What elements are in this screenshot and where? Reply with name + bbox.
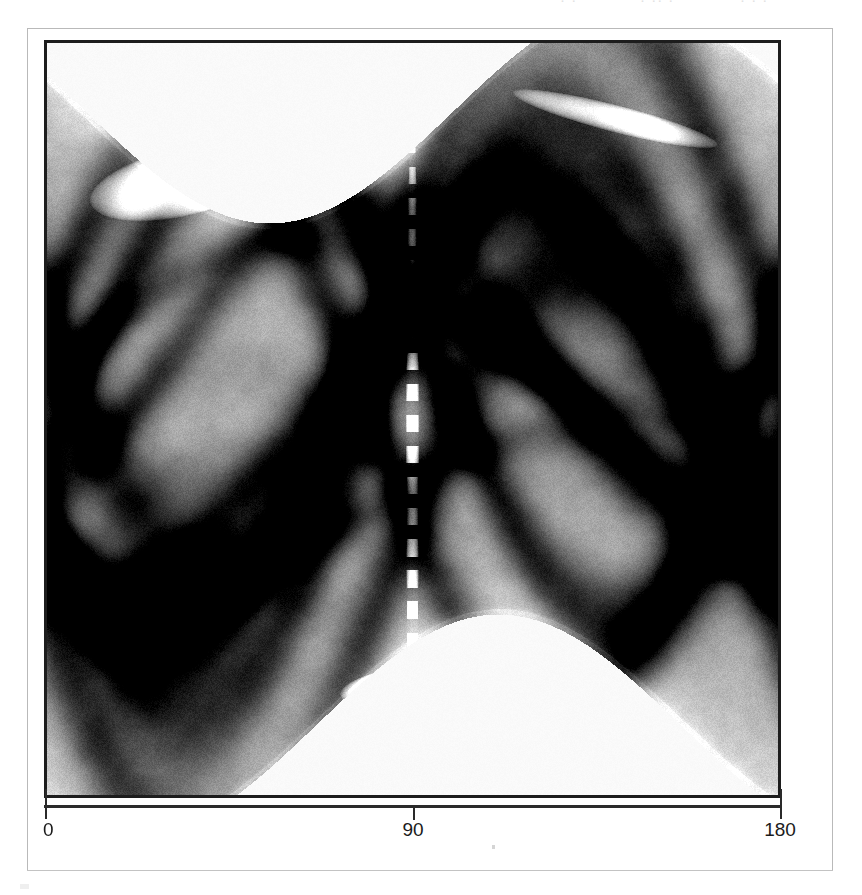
x-axis-tick-label-180: 180	[764, 820, 796, 839]
scan-artifact-top-strip: · ·· ·· ·· · ·	[0, 0, 862, 14]
scan-text-fragment: · · ·	[740, 0, 768, 8]
scan-text-fragment: · ·· ·	[640, 0, 674, 8]
x-axis-tick-180	[780, 789, 782, 819]
x-axis-tick-90	[413, 805, 415, 820]
scan-text-fragment: · ·	[560, 0, 577, 8]
sinogram-image	[47, 43, 778, 795]
x-axis-tick-0	[45, 789, 47, 819]
x-axis-tick-label-0: 0	[43, 820, 54, 839]
scan-speck	[20, 884, 29, 889]
figure-bottom-rule	[27, 870, 833, 871]
scan-speck	[492, 845, 495, 849]
x-axis-tick-label-90: 90	[402, 820, 423, 839]
